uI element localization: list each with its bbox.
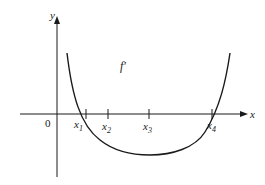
curve-label: f′ — [120, 59, 126, 73]
function-graph: y x 0 f′ x1 x2 x3 x4 — [0, 0, 265, 185]
tick-label-x3: x3 — [142, 120, 152, 135]
x-axis-arrow-icon — [240, 111, 248, 117]
tick-label-x1: x1 — [73, 118, 83, 133]
y-axis-label: y — [49, 9, 55, 21]
tick-label-x2: x2 — [101, 120, 111, 135]
curve-f-prime — [67, 53, 230, 155]
origin-label: 0 — [45, 117, 51, 129]
x-axis-label: x — [249, 108, 255, 120]
tick-label-x4: x4 — [206, 119, 216, 134]
y-axis-arrow-icon — [54, 16, 60, 24]
